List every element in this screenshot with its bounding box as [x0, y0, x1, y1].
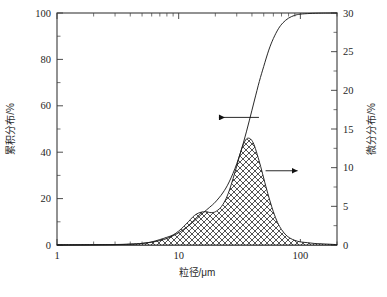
y2-axis-title: 微分分布/%	[365, 103, 377, 155]
x-axis-tick-labels: 110100	[54, 250, 308, 261]
plot-area-background	[57, 13, 337, 245]
y-tick-label: 80	[41, 54, 52, 65]
y2-tick-label: 10	[343, 162, 354, 173]
y2-tick-label: 25	[343, 46, 354, 57]
particle-size-distribution-chart: 110100 020406080100 051015202530 粒径/μm 累…	[0, 0, 387, 297]
y-tick-label: 0	[46, 240, 51, 251]
y-tick-label: 60	[41, 100, 52, 111]
y-axis-title: 累积分布/%	[5, 103, 16, 155]
y2-tick-label: 0	[343, 240, 348, 251]
y2-tick-label: 30	[343, 8, 354, 19]
y2-tick-label: 20	[343, 85, 354, 96]
y-tick-label: 100	[35, 8, 51, 19]
y-tick-label: 40	[41, 147, 52, 158]
x-tick-label: 1	[54, 250, 59, 261]
y2-axis-tick-labels: 051015202530	[343, 8, 354, 251]
y2-tick-label: 15	[343, 124, 354, 135]
x-axis-title: 粒径/μm	[179, 266, 216, 278]
x-tick-label: 100	[292, 250, 308, 261]
y-axis-tick-labels: 020406080100	[35, 8, 51, 251]
chart-figure: 110100 020406080100 051015202530 粒径/μm 累…	[0, 0, 387, 297]
x-tick-label: 10	[173, 250, 184, 261]
y-tick-label: 20	[41, 193, 52, 204]
y2-tick-label: 5	[343, 201, 348, 212]
